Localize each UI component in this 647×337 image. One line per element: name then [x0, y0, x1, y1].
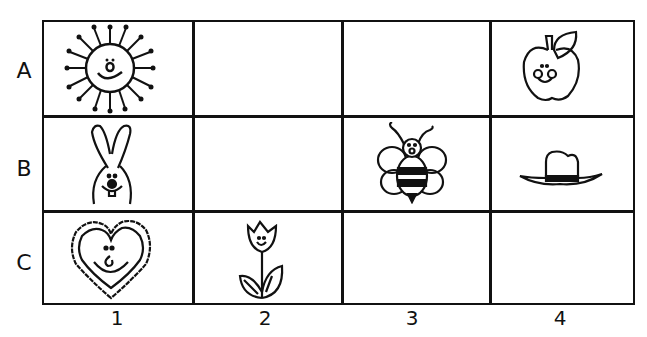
grid-line [341, 22, 344, 303]
row-label-b: B [14, 156, 34, 181]
col-label-4: 4 [545, 306, 575, 330]
grid-line [489, 22, 492, 303]
bee-icon [374, 122, 450, 204]
heart-icon [70, 218, 152, 300]
row-label-a: A [14, 58, 34, 83]
grid-line [192, 22, 195, 303]
col-label-2: 2 [250, 306, 280, 330]
apple-icon [520, 28, 582, 106]
grid-line [44, 210, 633, 213]
col-label-3: 3 [397, 306, 427, 330]
bunny-icon [88, 124, 136, 206]
row-label-c: C [14, 250, 34, 275]
grid-line [44, 115, 633, 118]
sun-icon [62, 22, 158, 114]
col-label-1: 1 [102, 306, 132, 330]
cowboy-hat-icon [518, 150, 604, 190]
tulip-icon [238, 220, 286, 300]
